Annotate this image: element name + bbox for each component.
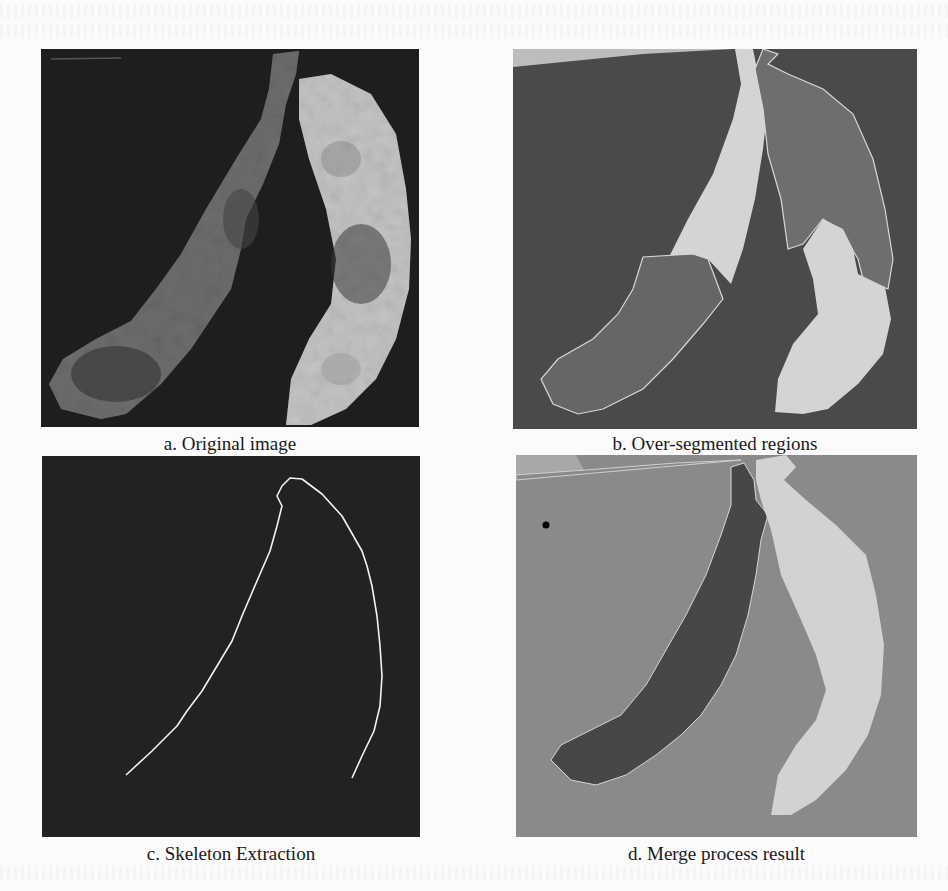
panel-a-original-image [41, 49, 419, 427]
bleed-through-text-top [0, 4, 948, 18]
segmentation-map-b [513, 49, 917, 429]
stomach-photo [41, 49, 419, 427]
caption-c: c. Skeleton Extraction [42, 843, 420, 865]
bleed-through-text-top-2 [0, 24, 948, 38]
bleed-through-text-bottom [0, 866, 948, 880]
segmentation-map-d [516, 455, 917, 837]
skeleton-outline [42, 456, 420, 837]
caption-b: b. Over-segmented regions [513, 433, 917, 455]
caption-d: d. Merge process result [516, 843, 917, 865]
panel-d-merge-result [516, 455, 917, 837]
caption-a: a. Original image [41, 433, 419, 455]
panel-c-skeleton-extraction [42, 456, 420, 837]
panel-b-over-segmented [513, 49, 917, 429]
